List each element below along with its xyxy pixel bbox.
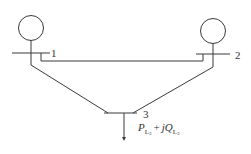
one-line-diagram: 1 2 3 PL3+jQL3 — [0, 0, 251, 154]
load-label: PL3+jQL3 — [137, 121, 180, 136]
bus-2-label: 2 — [235, 49, 241, 61]
line-1-2 — [41, 53, 203, 61]
line-2-3 — [133, 54, 213, 113]
generator-2-icon — [201, 19, 226, 44]
load-arrow-icon — [122, 137, 126, 141]
bus-3-label: 3 — [143, 108, 149, 120]
bus-1-label: 1 — [51, 47, 57, 59]
line-1-3 — [31, 53, 108, 113]
generator-1-icon — [19, 16, 44, 41]
